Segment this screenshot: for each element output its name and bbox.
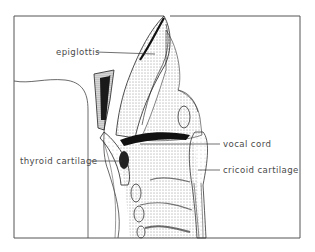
- larynx-illustration: [0, 0, 315, 252]
- corniculate-cartilage: [178, 106, 190, 128]
- trachea-column: [118, 142, 200, 238]
- label-epiglottis: epiglottis: [56, 47, 100, 57]
- larynx-diagram: epiglottis vocal cord cricoid cartilage …: [0, 0, 315, 252]
- hyoid-structure: [94, 70, 114, 130]
- label-vocal-cord: vocal cord: [223, 139, 271, 149]
- label-thyroid-cartilage: thyroid cartilage: [20, 156, 98, 166]
- label-cricoid-cartilage: cricoid cartilage: [223, 165, 299, 175]
